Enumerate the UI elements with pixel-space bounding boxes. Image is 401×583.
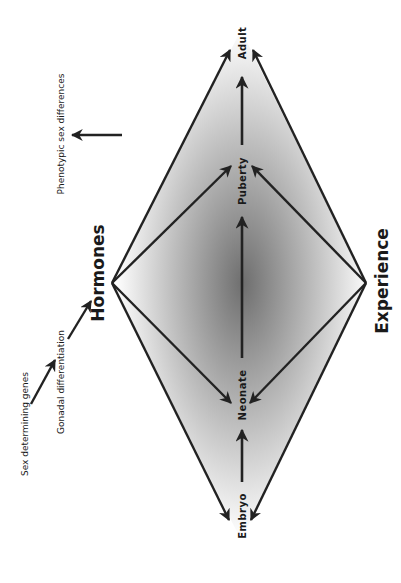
stage-label-embryo: Embryo [237, 493, 248, 539]
stage-label-adult: Adult [237, 27, 248, 60]
pathway-arrows [31, 135, 122, 404]
sex-differentiation-diagram: Adult Puberty Neonate Embryo Hormones Ex… [0, 0, 401, 583]
stage-label-puberty: Puberty [237, 157, 248, 205]
gonadal-differentiation-label: Gonadal differentiation [56, 330, 66, 434]
stage-label-neonate: Neonate [237, 370, 248, 421]
hormones-label: Hormones [88, 224, 108, 321]
experience-label: Experience [372, 228, 392, 334]
phenotypic-sex-differences-label: Phenotypic sex differences [56, 73, 66, 194]
sex-determining-genes-label: Sex determining genes [20, 372, 30, 476]
shaded-diamond [112, 30, 366, 540]
